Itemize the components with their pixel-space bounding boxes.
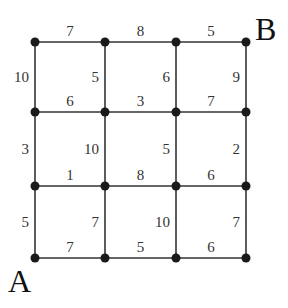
graph-node: [242, 38, 251, 47]
graph-node: [172, 38, 181, 47]
edge-weights: 785637186756105693105257107: [14, 23, 241, 255]
grid-graph-diagram: 785637186756105693105257107 B A: [0, 0, 288, 308]
edge-weight: 10: [84, 141, 99, 157]
edge-weight: 7: [233, 214, 241, 230]
edge-weight: 5: [22, 214, 30, 230]
edge-weight: 6: [163, 69, 171, 85]
graph-node: [242, 254, 251, 263]
nodes: [31, 38, 251, 263]
edge-weight: 8: [137, 23, 145, 39]
graph-node: [172, 182, 181, 191]
graph-node: [172, 254, 181, 263]
edge-weight: 2: [233, 141, 241, 157]
graph-node: [101, 182, 110, 191]
edge-weight: 3: [22, 141, 30, 157]
edge-weight: 9: [233, 69, 241, 85]
edges: [35, 42, 246, 258]
graph-node: [31, 38, 40, 47]
edge-weight: 5: [137, 239, 145, 255]
edge-weight: 7: [66, 23, 74, 39]
edge-weight: 5: [163, 141, 171, 157]
edge-weight: 3: [137, 93, 145, 109]
end-label-b: B: [255, 11, 276, 47]
graph-node: [101, 254, 110, 263]
edge-weight: 10: [14, 69, 29, 85]
edge-weight: 7: [66, 239, 74, 255]
start-label-a: A: [8, 263, 31, 299]
graph-node: [242, 108, 251, 117]
graph-node: [242, 182, 251, 191]
edge-weight: 8: [137, 167, 145, 183]
edge-weight: 6: [207, 239, 215, 255]
edge-weight: 10: [155, 214, 170, 230]
graph-node: [31, 108, 40, 117]
edge-weight: 6: [207, 167, 215, 183]
graph-node: [101, 38, 110, 47]
graph-node: [31, 254, 40, 263]
edge-weight: 5: [92, 69, 100, 85]
edge-weight: 7: [207, 93, 215, 109]
edge-weight: 7: [92, 214, 100, 230]
edge-weight: 6: [66, 93, 74, 109]
graph-node: [31, 182, 40, 191]
graph-node: [172, 108, 181, 117]
edge-weight: 1: [66, 167, 74, 183]
edge-weight: 5: [207, 23, 215, 39]
graph-node: [101, 108, 110, 117]
